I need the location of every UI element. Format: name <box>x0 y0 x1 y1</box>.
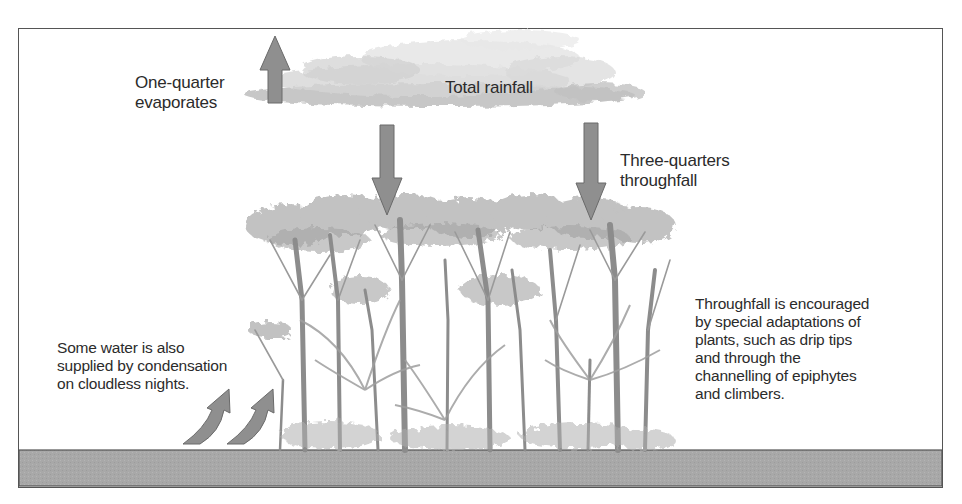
condensation-arrow-icon <box>227 389 274 444</box>
forest-icon <box>245 194 675 450</box>
condensation-label: Some water is also supplied by condensat… <box>57 339 227 393</box>
throughfall-label: Three-quarters throughfall <box>620 151 730 191</box>
adaptations-label: Throughfall is encouraged by special ada… <box>695 295 869 403</box>
condensation-arrow-icon <box>183 389 230 444</box>
total-rainfall-label: Total rainfall <box>445 78 533 98</box>
evaporation-label: One-quarter evaporates <box>135 73 224 113</box>
ground-band <box>19 450 942 486</box>
